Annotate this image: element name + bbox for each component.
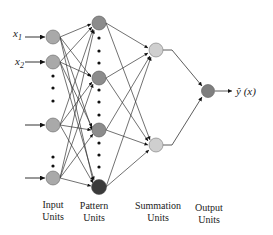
input-arrows xyxy=(25,37,45,178)
input-node xyxy=(46,118,60,132)
input-pattern-edges xyxy=(60,24,94,186)
pattern-node xyxy=(92,16,106,30)
network-diagram: x1 x2 ŷ (x) Input Units Pattern Units Su… xyxy=(0,0,273,235)
summation-layer xyxy=(149,43,163,152)
x2-label: x2 xyxy=(14,55,24,70)
summation-node xyxy=(149,43,163,57)
summation-node xyxy=(149,138,163,152)
input-node xyxy=(46,55,60,69)
pattern-node xyxy=(92,180,107,195)
x1-label: x1 xyxy=(12,27,22,42)
output-node xyxy=(202,85,215,98)
pattern-caption-2: Units xyxy=(83,212,105,223)
input-caption-2: Units xyxy=(42,211,64,222)
output-label: ŷ (x) xyxy=(235,85,256,98)
output-caption-2: Units xyxy=(198,214,220,225)
pattern-summation-edges xyxy=(106,23,151,187)
input-node xyxy=(46,171,60,185)
pattern-node xyxy=(92,71,106,85)
output-caption-1: Output xyxy=(195,202,223,213)
pattern-node xyxy=(92,123,106,137)
ellipsis-dots xyxy=(51,36,100,168)
pattern-caption-1: Pattern xyxy=(80,200,108,211)
input-node xyxy=(46,30,60,44)
summation-output-edges xyxy=(163,50,232,145)
summation-caption-2: Units xyxy=(147,212,169,223)
input-layer xyxy=(46,30,60,185)
input-caption-1: Input xyxy=(42,199,63,210)
summation-caption-1: Summation xyxy=(135,200,181,211)
